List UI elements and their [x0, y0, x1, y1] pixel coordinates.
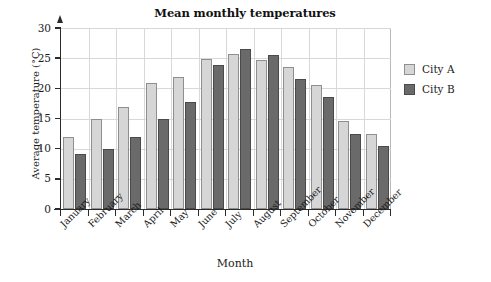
x-tick-9 [308, 209, 309, 216]
bar-november-city-a [338, 121, 349, 209]
gridline-x-3 [144, 28, 145, 209]
bar-september-city-b [295, 79, 306, 209]
gridline-x-6 [226, 28, 227, 209]
bar-january-city-a [63, 137, 74, 209]
x-tick-5 [198, 209, 199, 216]
y-tick-15 [55, 118, 61, 119]
y-tick-20 [55, 88, 61, 89]
month-label-july: July [224, 209, 244, 229]
bar-september-city-a [283, 67, 294, 209]
legend-swatch-icon-city-b [404, 84, 415, 95]
x-tick-11 [363, 209, 364, 216]
bar-june-city-b [213, 65, 224, 209]
bar-march-city-b [130, 137, 141, 209]
x-tick-6 [225, 209, 226, 216]
bar-may-city-a [173, 77, 184, 209]
plot-area: 051015202530 [60, 28, 391, 209]
gridline-x-8 [281, 28, 282, 209]
y-axis-arrow-icon [57, 15, 63, 23]
x-tick-2 [115, 209, 116, 216]
x-tick-3 [143, 209, 144, 216]
gridline-x-4 [171, 28, 172, 209]
chart-title: Mean monthly temperatures [100, 6, 390, 20]
y-tick-30 [55, 27, 61, 28]
month-label-may: May [169, 208, 191, 230]
gridline-x-1 [89, 28, 90, 209]
x-tick-12 [390, 209, 391, 216]
gridline-x-2 [116, 28, 117, 209]
legend-label: City B [422, 83, 455, 95]
chart-legend: City ACity B [404, 60, 488, 100]
bar-chart: Mean monthly temperatures Average temper… [0, 0, 491, 282]
y-tick-10 [55, 148, 61, 149]
y-tick-label-25: 25 [27, 53, 51, 64]
gridline-x-10 [336, 28, 337, 209]
y-tick-label-15: 15 [27, 113, 51, 124]
gridline-x-11 [364, 28, 365, 209]
bar-august-city-a [256, 60, 267, 209]
x-axis-label: Month [150, 257, 320, 270]
bar-april-city-a [146, 83, 157, 209]
legend-item-city-b[interactable]: City B [404, 80, 488, 98]
x-tick-0 [60, 209, 61, 216]
y-tick-label-10: 10 [27, 143, 51, 154]
x-tick-1 [88, 209, 89, 216]
y-tick-label-20: 20 [27, 83, 51, 94]
legend-swatch-icon-city-a [404, 64, 415, 75]
bar-august-city-b [268, 55, 279, 209]
x-tick-4 [170, 209, 171, 216]
bar-april-city-b [158, 119, 169, 209]
gridline-x-9 [309, 28, 310, 209]
y-tick-25 [55, 57, 61, 58]
legend-label: City A [422, 63, 454, 75]
bar-june-city-a [201, 59, 212, 209]
bar-may-city-b [185, 102, 196, 209]
bar-october-city-b [323, 97, 334, 209]
x-tick-7 [253, 209, 254, 216]
y-tick-label-0: 0 [27, 204, 51, 215]
gridline-x-7 [254, 28, 255, 209]
bar-july-city-a [228, 54, 239, 209]
bar-february-city-a [91, 119, 102, 210]
x-tick-10 [335, 209, 336, 216]
y-tick-label-30: 30 [27, 23, 51, 34]
x-tick-8 [280, 209, 281, 216]
legend-item-city-a[interactable]: City A [404, 60, 488, 78]
gridline-x-5 [199, 28, 200, 209]
bar-july-city-b [240, 49, 251, 209]
y-tick-5 [55, 178, 61, 179]
y-tick-label-5: 5 [27, 173, 51, 184]
